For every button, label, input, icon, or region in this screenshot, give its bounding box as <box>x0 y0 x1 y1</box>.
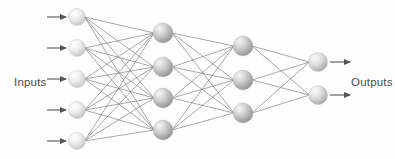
node-output-1 <box>309 53 328 72</box>
node-hidden-2-2 <box>233 70 253 90</box>
connection-edges <box>85 17 310 141</box>
edge-hidden-1-2-to-hidden-2-2 <box>172 98 234 113</box>
node-input-1 <box>69 9 86 26</box>
node-hidden-1-3 <box>153 88 173 108</box>
node-input-5 <box>69 133 86 150</box>
node-hidden-1-1 <box>153 23 173 43</box>
network-nodes <box>69 9 328 150</box>
node-input-4 <box>69 102 86 119</box>
edge-hidden-1-2-to-hidden-2-1 <box>172 80 234 98</box>
edge-input-2-to-hidden-1-1 <box>85 67 155 79</box>
edge-hidden-1-3-to-hidden-2-0 <box>172 46 234 130</box>
edge-input-0-to-hidden-1-0 <box>85 17 155 33</box>
edge-hidden-1-1-to-hidden-2-0 <box>172 46 234 67</box>
io-arrows <box>47 17 350 141</box>
edge-hidden-2-2-to-output-1 <box>252 95 310 113</box>
edge-input-4-to-hidden-1-3 <box>85 130 155 141</box>
edge-input-1-to-hidden-1-1 <box>85 48 155 67</box>
node-input-3 <box>69 71 86 88</box>
outputs-label: Outputs <box>351 76 393 88</box>
edge-hidden-1-1-to-hidden-2-1 <box>172 67 234 80</box>
edge-input-0-to-hidden-1-1 <box>85 17 155 67</box>
node-input-2 <box>69 40 86 57</box>
edge-hidden-1-0-to-hidden-2-0 <box>172 33 234 46</box>
neural-network-diagram: Inputs Outputs <box>0 0 395 159</box>
node-hidden-1-4 <box>153 120 173 140</box>
inputs-label: Inputs <box>14 76 47 88</box>
neural-network-canvas: Inputs Outputs <box>0 0 395 159</box>
edge-hidden-2-0-to-output-0 <box>252 46 310 62</box>
node-hidden-2-1 <box>233 36 253 56</box>
edge-input-2-to-hidden-1-0 <box>85 33 155 79</box>
edge-input-4-to-hidden-1-1 <box>85 67 155 141</box>
edge-input-1-to-hidden-1-0 <box>85 33 155 48</box>
node-hidden-1-2 <box>153 57 173 77</box>
edge-hidden-2-1-to-output-0 <box>252 62 310 80</box>
node-hidden-2-3 <box>233 103 253 123</box>
edge-hidden-1-3-to-hidden-2-2 <box>172 113 234 130</box>
edge-input-3-to-hidden-1-0 <box>85 33 155 110</box>
edge-input-1-to-hidden-1-3 <box>85 48 155 130</box>
node-output-2 <box>309 86 328 105</box>
